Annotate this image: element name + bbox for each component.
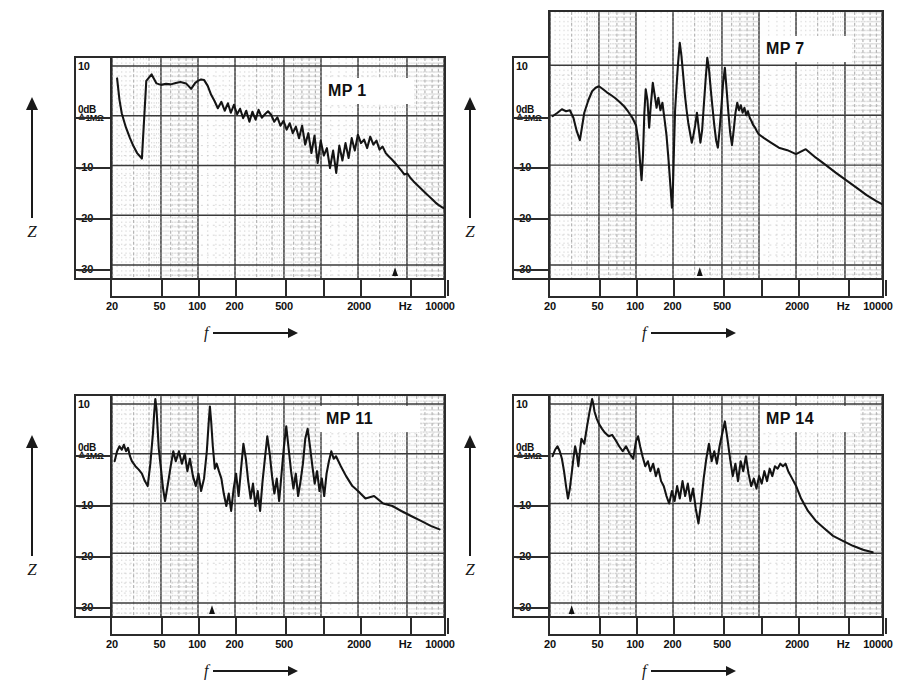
x-tick-label: Hz <box>837 638 850 650</box>
x-tick-divider <box>761 618 763 634</box>
x-tick-divider <box>599 618 601 634</box>
y-axis-arrow-icon <box>469 446 471 556</box>
x-axis-symbol: f <box>642 662 646 680</box>
y-axis-mp14: 100dB≙1MΩ-10-20-30 <box>512 394 548 618</box>
x-tick-divider <box>723 618 725 634</box>
x-tick-label: 10000 <box>863 638 893 650</box>
panel-title-mp14: MP 14 <box>766 410 814 428</box>
y-axis-symbol: Z <box>450 560 490 580</box>
x-tick-divider <box>673 618 675 634</box>
y-tick-label: 10 <box>516 398 528 410</box>
impedance-frequency-response-figure: Z100dB≙1MΩ-10-20-30MP 120501002005002000… <box>0 0 922 689</box>
chart-panel-mp14: Z100dB≙1MΩ-10-20-30MP 142050100200500200… <box>0 0 922 689</box>
x-tick-divider <box>848 618 850 634</box>
y-gutter-divider <box>514 556 548 558</box>
pen-park-marker <box>569 605 575 614</box>
x-tick-label: 2000 <box>785 638 809 650</box>
y-gutter-divider <box>514 505 548 507</box>
x-tick-divider <box>885 618 887 634</box>
x-tick-label: 50 <box>592 638 604 650</box>
y-gutter-divider <box>514 455 548 457</box>
x-axis-tick-strip-mp14 <box>548 618 884 636</box>
y-tick-label: 0dB≙1MΩ <box>516 443 541 461</box>
x-axis-label-group-mp14: f <box>642 662 726 680</box>
x-axis-arrow-icon <box>651 670 727 672</box>
x-tick-label: 100 <box>626 638 644 650</box>
x-tick-label: 500 <box>713 638 731 650</box>
y-gutter-divider <box>514 607 548 609</box>
x-tick-label: 200 <box>664 638 682 650</box>
y-axis-label-group-mp14: Z <box>450 446 490 580</box>
x-tick-divider <box>636 618 638 634</box>
x-tick-label: 20 <box>544 638 556 650</box>
x-tick-divider <box>798 618 800 634</box>
